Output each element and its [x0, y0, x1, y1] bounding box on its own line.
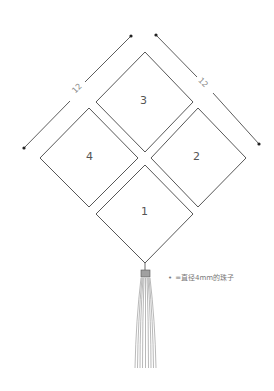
tassel	[135, 278, 156, 368]
dimension-endpoint-icon	[129, 34, 132, 37]
dimension-endpoint-icon	[154, 33, 157, 36]
legend: •=直径4mm的珠子	[168, 272, 234, 282]
dimension-right	[154, 33, 260, 145]
bead-legend-icon: •	[168, 274, 172, 282]
square-3-label: 3	[140, 94, 147, 107]
tassel-diagram	[0, 0, 274, 391]
square-2-label: 2	[193, 150, 200, 163]
dimension-endpoint-icon	[257, 142, 260, 145]
bead-icon	[141, 270, 150, 277]
legend-text: =直径4mm的珠子	[175, 274, 234, 282]
dimension-endpoint-icon	[22, 146, 25, 149]
square-4-label: 4	[86, 150, 93, 163]
square-1-label: 1	[141, 205, 148, 218]
